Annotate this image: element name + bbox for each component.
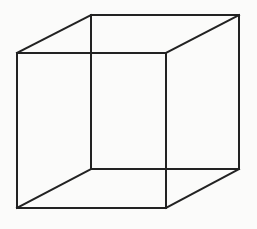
edge-connector-top-right	[166, 15, 239, 53]
necker-cube	[0, 0, 257, 229]
cube-diagram	[0, 0, 257, 229]
edge-connector-bottom-right	[166, 169, 239, 208]
edge-connector-bottom-left	[17, 169, 91, 208]
edge-connector-top-left	[17, 15, 91, 53]
